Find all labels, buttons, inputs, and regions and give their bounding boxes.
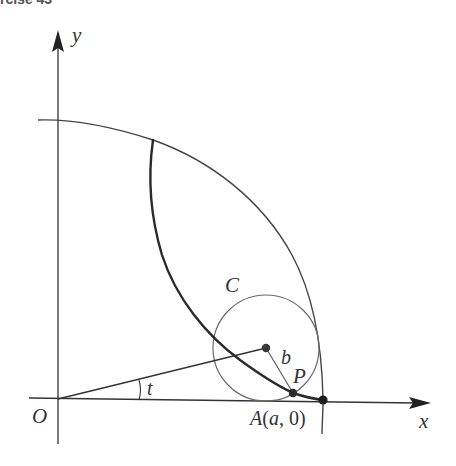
x-axis-label: x bbox=[419, 411, 428, 432]
angle-t-arc bbox=[139, 380, 141, 400]
origin-label: O bbox=[32, 406, 47, 427]
hypocycloid-figure: rcise 43 y x O C b P t A(a, 0) bbox=[0, 0, 456, 466]
point-a bbox=[318, 395, 327, 404]
point-a-args-text: (a, 0) bbox=[262, 407, 305, 429]
point-p bbox=[289, 389, 297, 397]
point-a-letter: A bbox=[250, 407, 262, 429]
diagram-canvas bbox=[0, 0, 456, 466]
x-axis bbox=[29, 398, 416, 403]
point-a-coords: (a, 0) bbox=[262, 407, 305, 429]
point-p-label: P bbox=[293, 366, 306, 387]
radius-b-label: b bbox=[281, 347, 291, 367]
rolling-center-point bbox=[262, 344, 270, 352]
angle-t-label: t bbox=[147, 378, 153, 398]
circle-c-label: C bbox=[225, 275, 239, 296]
point-a-label: A(a, 0) bbox=[250, 408, 306, 428]
hypocycloid-curve bbox=[150, 140, 323, 400]
y-axis-label: y bbox=[72, 25, 81, 46]
